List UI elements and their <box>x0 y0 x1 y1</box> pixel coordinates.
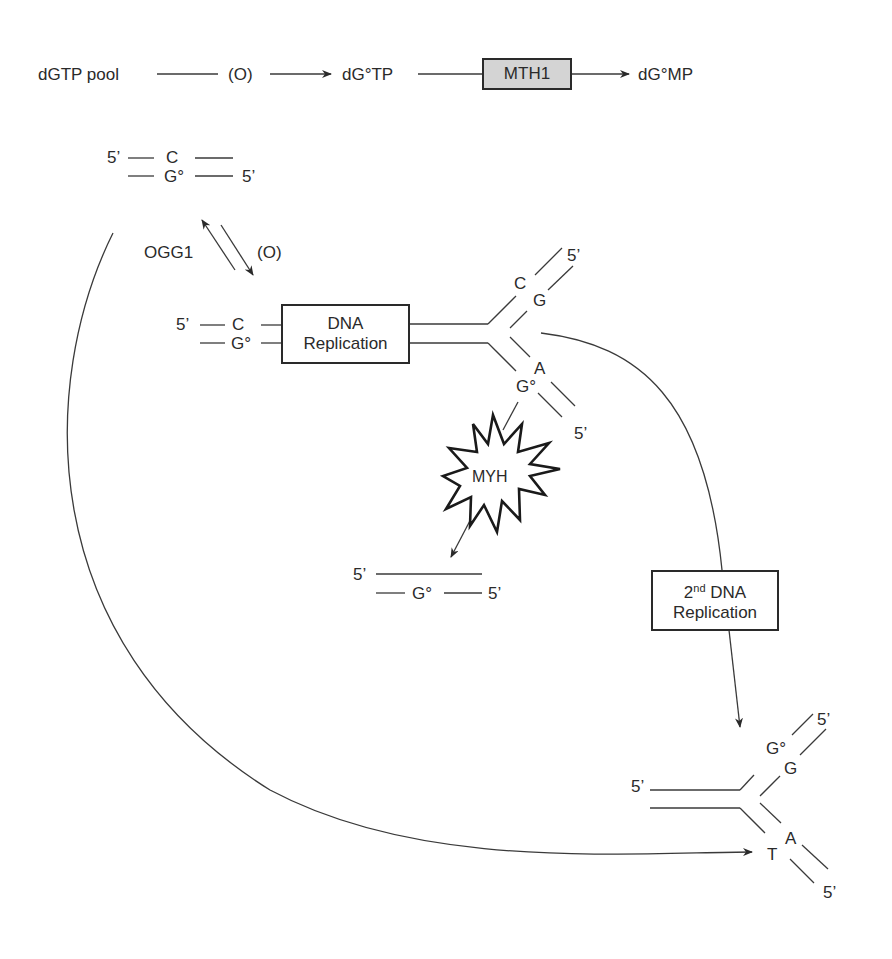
oxidation-label: (O) <box>228 66 253 83</box>
duplex-top-base-go: G° <box>164 168 184 185</box>
fork2-lower-prime: 5’ <box>823 884 836 901</box>
myh-product-prime-left: 5’ <box>353 566 366 583</box>
dgomp-label: dG°MP <box>638 66 693 83</box>
ogg1-label: OGG1 <box>144 244 193 261</box>
duplex-top-base-c: C <box>166 149 178 166</box>
myh-product-prime-right: 5’ <box>488 585 501 602</box>
pre-rep-prime: 5’ <box>176 316 189 333</box>
pre-rep-base-c: C <box>232 316 244 333</box>
fork1-lower-base-a: A <box>534 360 545 377</box>
fork1-lower-prime: 5’ <box>574 425 587 442</box>
mth1-box: MTH1 <box>482 58 572 90</box>
dgotp-label: dG°TP <box>342 66 393 83</box>
myh-product-base-go: G° <box>412 585 432 602</box>
fork2-upper-base-g: G <box>784 760 797 777</box>
ogg1-arrow <box>202 220 235 270</box>
dna-replication-2-box: 2nd DNA Replication <box>651 570 779 631</box>
mth1-label: MTH1 <box>504 64 550 84</box>
fork2-lower-base-t: T <box>767 846 777 863</box>
dna-replication-2-line1: 2nd DNA <box>684 578 746 603</box>
replication2-arrow <box>729 630 740 727</box>
fork2-upper-prime: 5’ <box>817 711 830 728</box>
dna-replication-line1: DNA <box>328 314 364 334</box>
duplex-top-prime-right: 5’ <box>242 168 255 185</box>
dna-replication-box: DNA Replication <box>281 304 410 364</box>
dna-replication-2-line2: Replication <box>673 603 757 623</box>
oxidation-arrow-2 <box>221 225 253 275</box>
dgtp-pool-label: dGTP pool <box>38 66 119 83</box>
oxidation-label-2: (O) <box>257 244 282 261</box>
dna-replication-line2: Replication <box>303 334 387 354</box>
duplex-top-prime-left: 5’ <box>107 149 120 166</box>
fork1-upper-prime: 5’ <box>567 247 580 264</box>
fork1-to-replication2-curve <box>541 333 722 570</box>
fork2-left-prime: 5’ <box>631 778 644 795</box>
fork2-lower-base-a: A <box>785 830 796 847</box>
myh-label: MYH <box>472 469 508 485</box>
fork1-upper-base-g: G <box>533 292 546 309</box>
pre-rep-base-go: G° <box>231 335 251 352</box>
fork1-lower-base-go: G° <box>516 378 536 395</box>
diagram-lines <box>0 0 892 959</box>
fork2-upper-base-go: G° <box>766 740 786 757</box>
fork1-upper-base-c: C <box>514 275 526 292</box>
